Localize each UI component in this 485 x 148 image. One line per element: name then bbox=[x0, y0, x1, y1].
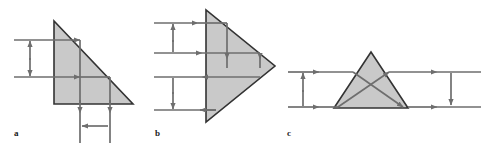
diagram-b bbox=[150, 0, 285, 148]
panel-label-a: a bbox=[14, 129, 19, 138]
prism-b bbox=[206, 10, 275, 122]
figure-root: a bbox=[0, 0, 485, 148]
prism-c bbox=[334, 52, 408, 108]
panel-label-b: b bbox=[155, 129, 160, 138]
prism-a bbox=[54, 21, 133, 104]
panel-b: b bbox=[150, 0, 285, 148]
panel-a: a bbox=[0, 0, 150, 148]
diagram-c bbox=[285, 0, 485, 148]
panel-label-c: c bbox=[287, 129, 291, 138]
panel-c: c bbox=[285, 0, 485, 148]
diagram-a bbox=[0, 0, 150, 148]
